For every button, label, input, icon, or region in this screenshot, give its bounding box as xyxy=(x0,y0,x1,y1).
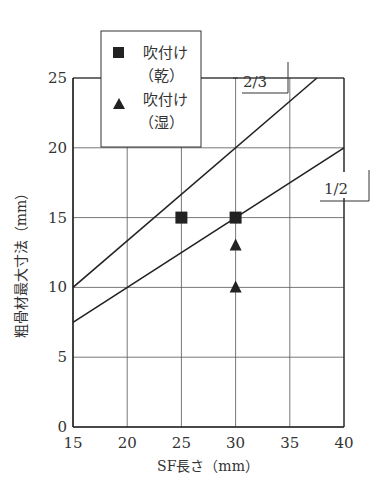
legend-entry-2-line2: （湿） xyxy=(139,114,184,132)
reference-line-1-2 xyxy=(73,148,344,322)
square-marker xyxy=(175,212,187,224)
legend-entry-1-line2: （乾） xyxy=(139,67,184,85)
x-tick-label: 35 xyxy=(280,434,299,452)
y-tick-label: 20 xyxy=(48,139,67,157)
y-tick-label: 10 xyxy=(48,278,67,296)
y-axis-ticks: 0510152025 xyxy=(48,69,67,436)
legend: 吹付け （乾） 吹付け （湿） xyxy=(101,31,201,147)
x-tick-label: 15 xyxy=(63,434,82,452)
y-tick-label: 5 xyxy=(57,348,67,366)
triangle-marker xyxy=(230,280,242,292)
line-label-1-2: 1/2 xyxy=(324,180,348,198)
legend-entry-1-line1: 吹付け xyxy=(143,44,188,62)
triangle-marker xyxy=(230,239,242,251)
x-tick-label: 40 xyxy=(334,434,353,452)
y-tick-label: 25 xyxy=(48,69,67,87)
legend-entry-2-line1: 吹付け xyxy=(143,91,188,109)
x-axis-ticks: 152025303540 xyxy=(63,434,353,452)
chart: 152025303540 0510152025 吹付け （乾） 吹付け （湿） … xyxy=(0,0,389,502)
data-points xyxy=(175,212,241,293)
square-marker xyxy=(230,212,242,224)
x-axis-label: SF長さ（mm） xyxy=(157,458,259,474)
y-axis-label: 粗骨材最大寸法（mm） xyxy=(13,186,29,339)
legend-square-marker xyxy=(113,47,124,58)
x-tick-label: 20 xyxy=(118,434,137,452)
y-tick-label: 0 xyxy=(57,418,67,436)
line-label-2-3: 2/3 xyxy=(243,73,267,91)
label-one-half: 1/2 xyxy=(320,170,369,201)
x-tick-label: 25 xyxy=(172,434,191,452)
y-tick-label: 15 xyxy=(48,209,67,227)
x-tick-label: 30 xyxy=(226,434,245,452)
